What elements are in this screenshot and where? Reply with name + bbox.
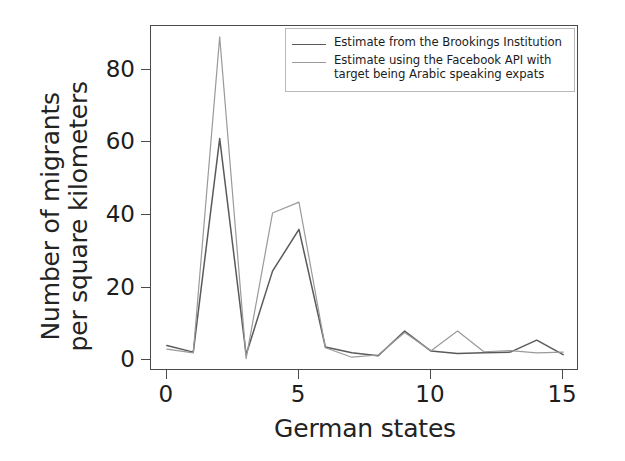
legend-swatch-facebook — [292, 53, 326, 63]
y-tick-label: 20 — [85, 274, 135, 300]
x-tick-mark — [166, 370, 167, 379]
x-tick-mark — [430, 370, 431, 379]
x-tick-mark — [298, 370, 299, 379]
legend-label-facebook: Estimate using the Facebook API with tar… — [334, 53, 551, 82]
x-tick-label: 5 — [270, 381, 326, 407]
legend-label-brookings: Estimate from the Brookings Institution — [334, 35, 562, 50]
legend-swatch-brookings — [292, 35, 326, 45]
legend-item-brookings: Estimate from the Brookings Institution — [292, 35, 567, 50]
y-tick-mark — [141, 141, 150, 142]
y-tick-mark — [141, 214, 150, 215]
x-tick-label: 15 — [534, 381, 590, 407]
y-tick-mark — [141, 359, 150, 360]
figure-canvas: Number of migrants per square kilometers… — [0, 0, 625, 461]
y-tick-mark — [141, 69, 150, 70]
legend-item-facebook: Estimate using the Facebook API with tar… — [292, 53, 567, 82]
x-tick-label: 10 — [402, 381, 458, 407]
chart-legend: Estimate from the Brookings Institution … — [285, 28, 575, 92]
x-axis-label: German states — [150, 414, 580, 443]
y-axis-label-line1: Number of migrants — [37, 46, 65, 386]
x-tick-mark — [562, 370, 563, 379]
y-tick-label: 0 — [85, 346, 135, 372]
y-tick-label: 60 — [85, 128, 135, 154]
y-tick-label: 40 — [85, 201, 135, 227]
x-tick-label: 0 — [138, 381, 194, 407]
y-tick-label: 80 — [85, 56, 135, 82]
series-line-0 — [167, 139, 563, 356]
y-tick-mark — [141, 287, 150, 288]
